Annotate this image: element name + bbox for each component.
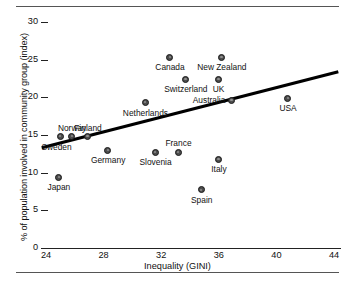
y-tick-mark bbox=[41, 60, 48, 61]
x-tick-label: 44 bbox=[319, 250, 349, 260]
y-tick-mark bbox=[41, 173, 48, 174]
data-point-label: Switzerland bbox=[164, 84, 207, 94]
data-point bbox=[68, 133, 75, 140]
data-point bbox=[166, 54, 173, 61]
y-tick-label: 5 bbox=[16, 204, 38, 214]
data-point-label: Slovenia bbox=[139, 157, 171, 167]
data-point bbox=[104, 147, 111, 154]
data-point-label: Italy bbox=[211, 164, 226, 174]
y-tick-mark bbox=[41, 22, 48, 23]
data-point bbox=[228, 97, 235, 104]
data-point bbox=[215, 156, 222, 163]
data-point bbox=[57, 133, 64, 140]
data-point bbox=[142, 99, 149, 106]
data-point bbox=[284, 95, 291, 102]
data-point bbox=[55, 174, 62, 181]
data-point bbox=[182, 76, 189, 83]
data-point-label: Germany bbox=[91, 155, 125, 165]
y-tick-label: 30 bbox=[16, 16, 38, 26]
x-tick-label: 40 bbox=[261, 250, 291, 260]
data-point bbox=[175, 149, 182, 156]
x-tick-label: 32 bbox=[146, 250, 176, 260]
y-tick-mark bbox=[41, 135, 48, 136]
y-tick-label: 10 bbox=[16, 167, 38, 177]
x-tick-label: 28 bbox=[89, 250, 119, 260]
y-tick-label: 15 bbox=[16, 129, 38, 139]
data-point-label: Japan bbox=[47, 182, 70, 192]
y-tick-label: 25 bbox=[16, 54, 38, 64]
y-tick-mark bbox=[41, 210, 48, 211]
scatter-plot: % of population involved in community gr… bbox=[0, 0, 355, 285]
data-point-label: Spain bbox=[191, 195, 212, 205]
data-point-label: Canada bbox=[155, 62, 184, 72]
y-tick-label: 20 bbox=[16, 91, 38, 101]
data-point-label: USA bbox=[279, 103, 296, 113]
data-point bbox=[84, 133, 91, 140]
data-point-label: France bbox=[165, 138, 191, 148]
data-point-label: Netherlands bbox=[123, 108, 168, 118]
x-tick-label: 24 bbox=[31, 250, 61, 260]
x-axis-label: Inequality (GINI) bbox=[0, 261, 355, 271]
data-point-label: Sweden bbox=[41, 142, 71, 152]
data-point bbox=[152, 149, 159, 156]
figure: % of population involved in community gr… bbox=[0, 0, 355, 285]
data-point-label: Finland bbox=[74, 123, 101, 133]
y-tick-mark bbox=[41, 97, 48, 98]
data-point-label: UK bbox=[213, 84, 225, 94]
data-point-label: Australia bbox=[193, 95, 226, 105]
data-point-label: New Zealand bbox=[197, 62, 246, 72]
data-point bbox=[218, 54, 225, 61]
data-point bbox=[198, 186, 205, 193]
data-point bbox=[215, 76, 222, 83]
x-axis-line bbox=[42, 248, 341, 249]
x-tick-label: 36 bbox=[204, 250, 234, 260]
